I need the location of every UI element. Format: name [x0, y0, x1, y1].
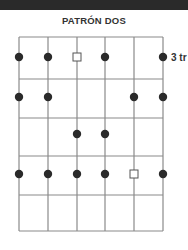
finger-dot-marker [15, 93, 23, 101]
finger-dot-marker [101, 130, 109, 138]
finger-dot-marker [130, 93, 138, 101]
finger-dot-marker [73, 130, 81, 138]
root-square-marker [130, 170, 138, 178]
finger-dot-marker [159, 170, 167, 178]
finger-dot-marker [44, 170, 52, 178]
finger-dot-marker [73, 170, 81, 178]
finger-dot-marker [101, 170, 109, 178]
finger-dot-marker [44, 53, 52, 61]
finger-dot-marker [44, 93, 52, 101]
finger-dot-marker [15, 53, 23, 61]
finger-dot-marker [159, 93, 167, 101]
finger-dot-marker [15, 170, 23, 178]
finger-dot-marker [101, 53, 109, 61]
root-square-marker [73, 53, 81, 61]
finger-dot-marker [159, 53, 167, 61]
fret-position-label: 3 tr [171, 52, 187, 63]
fretboard-diagram [0, 0, 188, 250]
